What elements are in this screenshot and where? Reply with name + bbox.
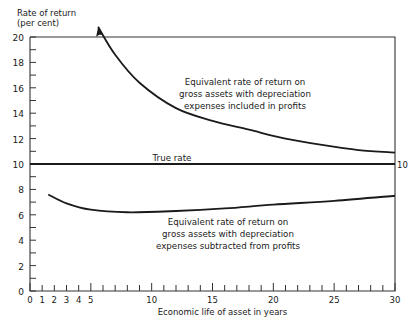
depreciation-subtracted-curve [48,194,395,212]
x-tick-label: 20 [268,295,279,305]
x-tick-label: 5 [88,295,93,305]
y-tick-label: 2 [18,262,24,272]
included-curve-label: gross assets with depreciation [179,89,311,99]
rate-of-return-chart: 02468101214161820Rate of return(per cent… [0,0,416,328]
subtracted-curve-label: Equivalent rate of return on [168,217,289,227]
x-axis-label: Economic life of asset in years [158,307,288,317]
x-tick-label: 15 [207,295,218,305]
x-tick-label: 25 [329,295,340,305]
right-axis-label: 10 [397,160,408,170]
subtracted-curve-label: expenses subtracted from profits [156,241,301,251]
y-axis-label: Rate of return [17,8,76,18]
y-axis-label: (per cent) [17,18,59,28]
y-tick-label: 16 [13,84,25,94]
y-tick-label: 18 [13,58,25,68]
subtracted-curve-label: gross assets with depreciation [162,229,294,239]
x-tick-label: 3 [64,295,69,305]
y-tick-label: 4 [18,236,24,246]
x-tick-label: 4 [76,295,81,305]
true-rate-label: True rate [152,153,192,163]
included-curve-label: expenses included in profits [184,101,306,111]
y-tick-label: 20 [13,33,25,43]
y-tick-label: 12 [13,135,24,145]
y-tick-label: 6 [18,211,24,221]
x-tick-label: 2 [52,295,57,305]
series-lines [30,27,395,212]
y-tick-label: 8 [18,185,24,195]
x-tick-label: 30 [390,295,401,305]
y-axis: 02468101214161820Rate of return(per cent… [13,8,77,297]
x-tick-label: 1 [39,295,44,305]
y-tick-label: 10 [13,160,25,170]
x-tick-label: 10 [146,295,157,305]
y-tick-label: 14 [13,109,25,119]
y-tick-label: 0 [18,287,24,297]
x-tick-label: 0 [27,295,32,305]
included-curve-label: Equivalent rate of return on [185,77,306,87]
